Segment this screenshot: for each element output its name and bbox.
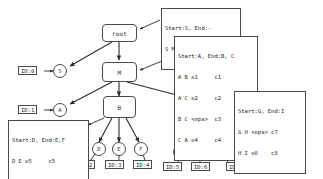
id-badge-1: ID:1 xyxy=(18,105,37,114)
edge-B-to-D xyxy=(99,118,112,142)
diagram-canvas: root M B C S A D E F G H I ID:0 ID:1 ID:… xyxy=(0,0,323,179)
callout-M-line-0: Start:A, End:B, C xyxy=(178,53,254,60)
leaf-D-label: D xyxy=(97,146,100,152)
node-B[interactable]: B xyxy=(103,96,136,118)
edge-B-to-F xyxy=(126,118,139,142)
callout-C: Start:G, End:I G H <eps> c7 H I e8 c8 xyxy=(234,91,306,174)
leaf-node-A[interactable]: A xyxy=(53,103,67,117)
id-badge-1-label: ID:1 xyxy=(21,107,34,113)
node-root[interactable]: root xyxy=(102,24,137,42)
node-M-label: M xyxy=(118,69,122,76)
callout-pointer-root xyxy=(140,20,160,29)
id-badge-3: ID:3 xyxy=(105,160,124,169)
callout-B-line-1: D E e5 c5 xyxy=(12,158,85,165)
callout-B: Start:D, End:E,F D E e5 c5 D F e6 c6 xyxy=(8,120,89,179)
id-badge-0: ID:0 xyxy=(18,66,37,75)
leaf-A-label: A xyxy=(58,107,61,113)
id-badge-3-label: ID:3 xyxy=(108,162,121,168)
id-badge-4-label: ID:4 xyxy=(136,162,149,168)
node-root-label: root xyxy=(112,30,127,37)
callout-M-line-1: A B e1 c1 xyxy=(178,74,254,81)
leaf-F-label: F xyxy=(139,146,142,152)
id-badge-0-label: ID:0 xyxy=(21,68,34,74)
leaf-E-label: E xyxy=(117,146,120,152)
node-B-label: B xyxy=(118,104,122,111)
leaf-node-D[interactable]: D xyxy=(92,142,106,156)
id-badge-5: ID:5 xyxy=(163,162,182,171)
callout-root-line-0: Start:S, End:- xyxy=(165,25,237,32)
leaf-S-label: S xyxy=(58,68,61,74)
id-badge-4: ID:4 xyxy=(133,160,152,169)
callout-C-line-2: H I e8 c8 xyxy=(238,150,302,157)
callout-B-line-0: Start:D, End:E,F xyxy=(12,137,85,144)
callout-pointer-B xyxy=(88,118,104,125)
callout-C-line-1: G H <eps> c7 xyxy=(238,129,302,136)
leaf-node-S[interactable]: S xyxy=(53,64,67,78)
leaf-node-F[interactable]: F xyxy=(134,142,148,156)
id-badge-6-label: ID:6 xyxy=(194,164,207,170)
id-badge-6: ID:6 xyxy=(191,162,210,171)
leaf-node-E[interactable]: E xyxy=(112,142,126,156)
id-badge-5-label: ID:5 xyxy=(166,164,179,170)
node-M[interactable]: M xyxy=(102,62,137,82)
callout-C-line-0: Start:G, End:I xyxy=(238,108,302,115)
